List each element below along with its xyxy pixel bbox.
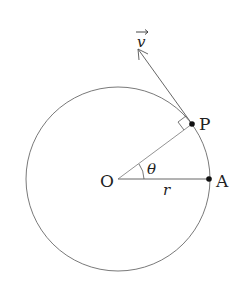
label-r: r xyxy=(163,181,171,199)
label-p: P xyxy=(199,114,210,134)
label-o: O xyxy=(100,171,114,191)
label-a: A xyxy=(215,171,229,191)
circular-motion-diagram: O P A r θ v xyxy=(0,0,244,293)
right-angle-marker xyxy=(178,116,186,130)
point-p-dot xyxy=(189,121,195,127)
label-v: v xyxy=(137,33,146,51)
point-a-dot xyxy=(206,176,212,182)
velocity-vector xyxy=(138,49,192,124)
label-theta: θ xyxy=(147,160,156,178)
angle-arc xyxy=(139,164,144,179)
